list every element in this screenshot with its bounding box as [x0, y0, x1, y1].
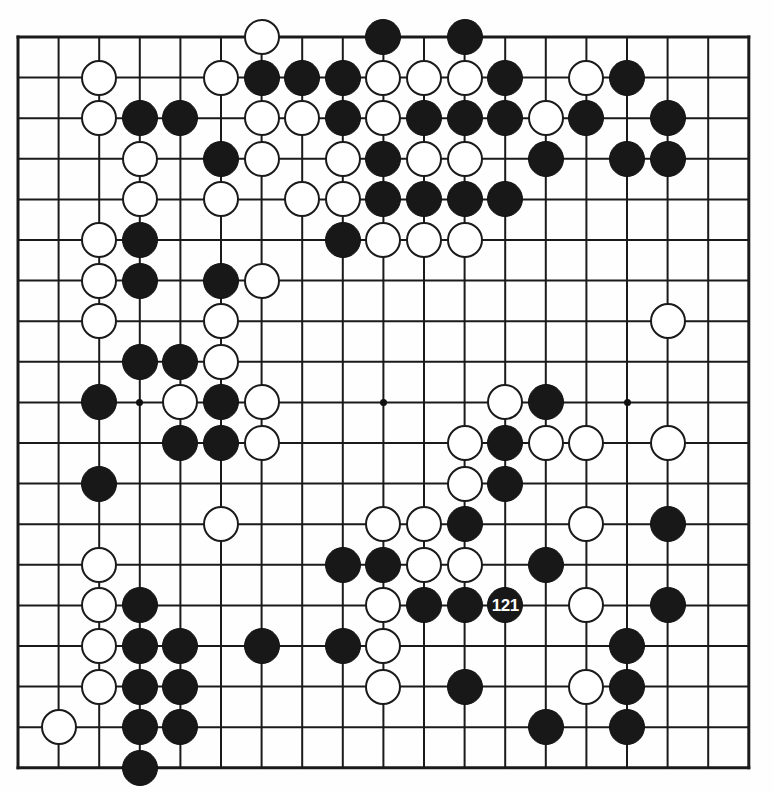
white-stone[interactable] [568, 60, 604, 96]
white-stone[interactable] [447, 222, 483, 258]
black-stone[interactable] [122, 100, 158, 136]
black-stone[interactable] [325, 222, 361, 258]
white-stone[interactable] [650, 303, 686, 339]
white-stone[interactable] [244, 19, 280, 55]
white-stone[interactable] [122, 141, 158, 177]
star-point [624, 399, 631, 406]
white-stone[interactable] [447, 466, 483, 502]
black-stone[interactable] [365, 547, 401, 583]
white-stone[interactable] [528, 425, 564, 461]
black-stone[interactable] [528, 547, 564, 583]
white-stone[interactable] [244, 141, 280, 177]
white-stone[interactable] [406, 60, 442, 96]
white-stone[interactable] [528, 100, 564, 136]
white-stone[interactable] [650, 425, 686, 461]
black-stone[interactable] [447, 19, 483, 55]
black-stone[interactable] [528, 141, 564, 177]
black-stone[interactable] [609, 628, 645, 664]
black-stone[interactable] [609, 60, 645, 96]
black-stone[interactable] [650, 141, 686, 177]
white-stone[interactable] [365, 60, 401, 96]
white-stone[interactable] [81, 628, 117, 664]
white-stone[interactable] [244, 425, 280, 461]
white-stone[interactable] [244, 384, 280, 420]
white-stone[interactable] [203, 344, 239, 380]
black-stone[interactable] [122, 669, 158, 705]
white-stone[interactable] [81, 60, 117, 96]
black-stone[interactable] [122, 750, 158, 786]
black-stone[interactable] [81, 466, 117, 502]
black-stone[interactable] [122, 628, 158, 664]
black-stone[interactable] [650, 100, 686, 136]
white-stone[interactable] [81, 222, 117, 258]
white-stone[interactable] [325, 181, 361, 217]
black-stone[interactable] [122, 222, 158, 258]
black-stone[interactable] [447, 100, 483, 136]
black-stone[interactable] [447, 181, 483, 217]
black-stone[interactable] [528, 709, 564, 745]
white-stone[interactable] [447, 60, 483, 96]
black-stone[interactable] [244, 628, 280, 664]
white-stone[interactable] [81, 669, 117, 705]
black-stone[interactable] [406, 100, 442, 136]
white-stone[interactable] [203, 506, 239, 542]
white-stone[interactable] [447, 141, 483, 177]
white-stone[interactable] [41, 709, 77, 745]
black-stone[interactable] [203, 263, 239, 299]
white-stone[interactable] [365, 669, 401, 705]
white-stone[interactable] [447, 425, 483, 461]
black-stone[interactable] [447, 587, 483, 623]
black-stone[interactable]: 121 [487, 587, 523, 623]
black-stone[interactable] [650, 587, 686, 623]
white-stone[interactable] [406, 141, 442, 177]
black-stone[interactable] [325, 100, 361, 136]
black-stone[interactable] [122, 344, 158, 380]
white-stone[interactable] [203, 60, 239, 96]
white-stone[interactable] [203, 303, 239, 339]
go-board-diagram: 121 [0, 0, 774, 792]
white-stone[interactable] [406, 222, 442, 258]
black-stone[interactable] [325, 628, 361, 664]
white-stone[interactable] [81, 547, 117, 583]
black-stone[interactable] [122, 709, 158, 745]
black-stone[interactable] [487, 425, 523, 461]
white-stone[interactable] [568, 669, 604, 705]
black-stone[interactable] [122, 587, 158, 623]
black-stone[interactable] [284, 60, 320, 96]
black-stone[interactable] [203, 425, 239, 461]
black-stone[interactable] [325, 547, 361, 583]
black-stone[interactable] [609, 669, 645, 705]
white-stone[interactable] [81, 263, 117, 299]
black-stone[interactable] [487, 466, 523, 502]
move-number-label: 121 [488, 588, 522, 622]
black-stone[interactable] [365, 141, 401, 177]
star-point [380, 399, 387, 406]
white-stone[interactable] [244, 100, 280, 136]
white-stone[interactable] [244, 263, 280, 299]
black-stone[interactable] [609, 141, 645, 177]
white-stone[interactable] [447, 547, 483, 583]
white-stone[interactable] [406, 506, 442, 542]
black-stone[interactable] [447, 506, 483, 542]
white-stone[interactable] [406, 547, 442, 583]
black-stone[interactable] [487, 60, 523, 96]
black-stone[interactable] [447, 669, 483, 705]
black-stone[interactable] [244, 60, 280, 96]
black-stone[interactable] [203, 141, 239, 177]
black-stone[interactable] [162, 344, 198, 380]
black-stone[interactable] [122, 263, 158, 299]
black-stone[interactable] [162, 669, 198, 705]
white-stone[interactable] [325, 141, 361, 177]
black-stone[interactable] [650, 506, 686, 542]
white-stone[interactable] [122, 181, 158, 217]
black-stone[interactable] [325, 60, 361, 96]
black-stone[interactable] [528, 384, 564, 420]
black-stone[interactable] [609, 709, 645, 745]
